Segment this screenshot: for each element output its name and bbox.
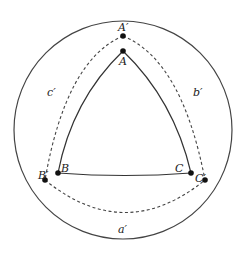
side-a-prime xyxy=(45,180,205,213)
side-c-prime xyxy=(45,36,123,180)
point-a xyxy=(120,48,126,54)
point-a-prime xyxy=(120,33,126,39)
label-c-prime-side: c′ xyxy=(47,86,56,99)
label-a-prime-side: a′ xyxy=(118,223,128,236)
label-a: A xyxy=(118,55,127,68)
side-b xyxy=(123,51,191,173)
point-c xyxy=(188,170,194,176)
triangle-abc xyxy=(58,51,191,176)
label-b-prime-side: b′ xyxy=(193,86,203,99)
label-c: C xyxy=(175,162,184,175)
label-a-prime: A′ xyxy=(117,21,129,34)
label-b-prime: B′ xyxy=(37,169,49,182)
point-b xyxy=(55,170,61,176)
label-b: B xyxy=(60,162,69,175)
side-c xyxy=(58,51,123,173)
side-b-prime xyxy=(123,36,205,180)
spherical-triangle-diagram: A′ A B B′ C C′ c′ b′ a′ xyxy=(0,0,243,254)
label-c-prime: C′ xyxy=(195,172,206,185)
side-a xyxy=(58,173,191,176)
